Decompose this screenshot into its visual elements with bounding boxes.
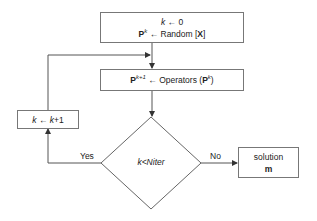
init-p-line: Pk ← Random [X]	[139, 28, 206, 40]
yes-label: Yes	[80, 151, 94, 161]
decision-label: k<Niter	[121, 157, 181, 167]
init-k-line: k ← 0	[161, 16, 183, 28]
init-box: k ← 0 Pk ← Random [X]	[100, 12, 244, 43]
increment-box: k ← k+1	[17, 110, 79, 129]
solution-box: solution m	[238, 147, 299, 178]
operators-box: Pk+1 ← Operators (Pk)	[100, 69, 244, 91]
no-label: No	[210, 151, 221, 161]
